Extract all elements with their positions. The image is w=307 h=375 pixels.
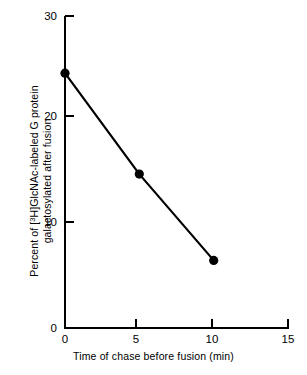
x-tick-label-0: 0 [52, 333, 78, 345]
data-series-line [65, 73, 214, 260]
data-point-marker-5min [135, 170, 144, 179]
y-axis-title: Percent of [3H]GlcNAc-labeled G protein … [28, 56, 54, 306]
x-tick-label-10: 10 [199, 333, 225, 345]
figure-chart-container: 30 20 10 0 0 5 10 15 Time of chase befor… [0, 0, 307, 375]
x-axis-title: Time of chase before fusion (min) [0, 350, 307, 362]
y-tick-label-30: 30 [31, 10, 57, 22]
y-axis-title-line2: galactosylated after fusion [41, 56, 54, 306]
x-tick-label-15: 15 [275, 333, 301, 345]
data-point-marker-10min [209, 256, 218, 265]
y-axis-title-line1-pre: Percent of [ [28, 222, 40, 277]
x-tick-label-5: 5 [123, 333, 149, 345]
y-axis-title-superscript-3: 3 [28, 217, 37, 221]
data-point-marker-0min [60, 69, 69, 78]
y-axis-title-line1-post: H]GlcNAc-labeled G protein [28, 85, 40, 217]
y-axis-title-line1: Percent of [3H]GlcNAc-labeled G protein [28, 56, 41, 306]
